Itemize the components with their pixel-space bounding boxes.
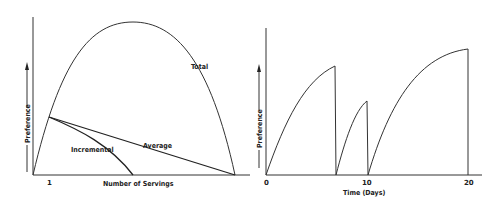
- right-x-label: Time (Days): [343, 189, 385, 197]
- left-y-arrow-icon: [25, 62, 29, 70]
- right-tick-10: 10: [362, 179, 372, 187]
- right-y-arrow-icon: [257, 64, 261, 72]
- figure: Preference Total Average Incremental 1 N…: [0, 0, 502, 207]
- total-label: Total: [191, 63, 208, 71]
- right-y-label: Preference: [256, 109, 264, 148]
- right-tick-20: 20: [464, 179, 474, 187]
- incremental-label: Incremental: [71, 146, 114, 154]
- left-tick-1: 1: [47, 179, 52, 187]
- right-chart: Preference 0 10 20 Time (Days): [256, 28, 482, 197]
- total-curve: [33, 22, 235, 175]
- left-x-label: Number of Servings: [103, 180, 174, 188]
- left-y-label: Preference: [24, 104, 32, 143]
- average-label: Average: [143, 142, 172, 150]
- left-chart: Preference Total Average Incremental 1 N…: [24, 17, 250, 188]
- right-tick-0: 0: [264, 179, 269, 187]
- preference-curve: [266, 49, 468, 175]
